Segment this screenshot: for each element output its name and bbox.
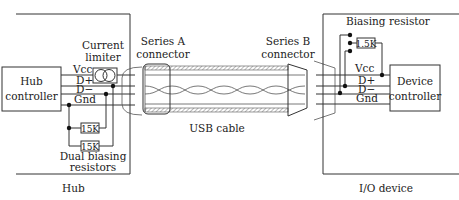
device-controller-box [390,65,440,111]
usb-diagram: Hub Hub controller Vcc D+ D− Gnd Current… [0,0,459,200]
io-device-label: I/O device [359,182,413,194]
device-controller-label-2: controller [389,90,442,102]
current-limiter-icon [93,68,117,83]
current-limiter-label-1: Current [82,39,125,51]
hub-resistor-1-value: 15K [81,124,99,134]
device-resistor-value: 1.5K [355,39,376,49]
series-b-label-1: Series B [266,35,311,47]
device-gnd-label: Gnd [356,92,378,104]
current-limiter-label-2: limiter [85,51,121,63]
series-a-label-2: connector [136,48,190,60]
usb-cable [145,66,305,112]
device-signal-lines [316,75,390,104]
hub-signal-lines [61,75,135,105]
usb-cable-label: USB cable [189,122,245,134]
series-b-label-2: connector [261,48,315,60]
hub-controller-label-2: controller [5,90,58,102]
dual-biasing-label-2: resistors [70,161,116,173]
hub-controller-label-1: Hub [20,75,43,87]
hub-controller-box [2,67,61,111]
biasing-resistor-label: Biasing resistor [346,15,431,27]
device-vcc-label: Vcc [354,62,374,74]
device-controller-label-1: Device [397,75,433,87]
series-b-connector [288,64,307,116]
device-receptacle [314,61,335,120]
hub-gnd-label: Gnd [74,93,96,105]
hub-receptacle [122,67,142,115]
hub-label: Hub [62,182,85,194]
series-a-label-1: Series A [141,35,186,47]
